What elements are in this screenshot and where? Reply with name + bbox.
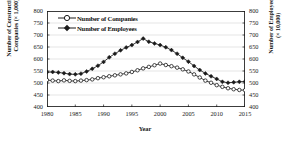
y-axis-left-tick-550: 550 [23, 67, 43, 74]
y-axis-left-title-line2: Companies (× 1,000) [12, 0, 19, 71]
data-point [130, 43, 134, 47]
data-point [153, 63, 157, 67]
data-point [226, 87, 230, 91]
legend-label-companies: Number of Companies [77, 15, 138, 22]
series-employees [47, 37, 245, 85]
data-point [209, 74, 213, 78]
data-point [232, 87, 236, 91]
data-point [124, 72, 128, 76]
data-point [62, 71, 66, 75]
y-axis-right-tick-450: 450 [249, 91, 269, 98]
data-point [102, 75, 106, 79]
y-axis-right-tick-750: 750 [249, 19, 269, 26]
data-point [68, 72, 72, 76]
data-point [147, 65, 151, 69]
x-axis-tick-1985: 1985 [63, 110, 87, 117]
data-point [68, 79, 72, 83]
data-point [141, 67, 145, 71]
y-axis-left-tick-500: 500 [23, 79, 43, 86]
data-point [198, 76, 202, 80]
data-point [232, 80, 236, 84]
data-point [238, 88, 242, 92]
data-point [113, 74, 117, 78]
data-point [170, 64, 174, 68]
data-point [51, 70, 55, 74]
data-point [204, 79, 208, 83]
x-axis-tick-2005: 2005 [176, 110, 200, 117]
data-point [57, 79, 61, 83]
x-axis-tick-2010: 2010 [205, 110, 229, 117]
y-axis-right-tick-800: 800 [249, 7, 269, 14]
data-point [96, 76, 100, 80]
data-point [136, 40, 140, 44]
data-point [215, 83, 219, 87]
legend-item-employees: Number of Employees [57, 23, 161, 33]
x-axis-tick-2015: 2015 [233, 110, 257, 117]
y-axis-left-tick-450: 450 [23, 91, 43, 98]
data-point [169, 48, 173, 52]
data-point [91, 78, 95, 82]
open-circle-icon [57, 13, 77, 23]
data-point [243, 88, 245, 92]
data-point [209, 81, 213, 85]
y-axis-left-tick-400: 400 [23, 103, 43, 110]
data-point [79, 72, 83, 76]
x-axis-tick-1980: 1980 [35, 110, 59, 117]
x-axis-tick-1990: 1990 [92, 110, 116, 117]
x-axis-tick-2000: 2000 [148, 110, 172, 117]
data-point [62, 79, 66, 83]
chart-figure: Number of Construction Companies (× 1,00… [0, 0, 296, 142]
y-axis-right-tick-500: 500 [249, 79, 269, 86]
data-point [74, 79, 78, 83]
data-point [221, 85, 225, 89]
legend-label-employees: Number of Employees [77, 25, 137, 32]
data-point [187, 70, 191, 74]
y-axis-right-tick-550: 550 [249, 67, 269, 74]
data-point [107, 75, 111, 79]
data-point [164, 63, 168, 67]
y-axis-left-tick-600: 600 [23, 55, 43, 62]
x-axis-title: Year [44, 125, 246, 133]
y-axis-right-tick-400: 400 [249, 103, 269, 110]
data-point [85, 69, 89, 73]
y-axis-right-tick-700: 700 [249, 31, 269, 38]
y-axis-left-tick-700: 700 [23, 31, 43, 38]
data-point [79, 79, 83, 83]
y-axis-right-tick-650: 650 [249, 43, 269, 50]
data-point [203, 71, 207, 75]
data-point [147, 40, 151, 44]
data-point [158, 62, 162, 65]
data-point [85, 78, 89, 82]
y-axis-left-title-line1: Number of Construction [5, 0, 12, 71]
y-axis-right-tick-600: 600 [249, 55, 269, 62]
data-point [51, 79, 55, 83]
data-point [181, 68, 185, 72]
y-axis-left-tick-650: 650 [23, 43, 43, 50]
data-point [152, 41, 156, 45]
y-axis-left-tick-750: 750 [23, 19, 43, 26]
chart-legend: Number of Companies Number of Employees [57, 13, 161, 33]
y-axis-left-title: Number of Construction Companies (× 1,00… [5, 0, 20, 71]
data-point [73, 72, 77, 76]
data-point [215, 77, 219, 81]
filled-diamond-icon [57, 23, 77, 33]
data-point [226, 81, 230, 85]
y-axis-right-title-line2: (× 10,000) [274, 0, 281, 71]
data-point [141, 37, 145, 41]
data-point [130, 70, 134, 74]
data-point [175, 66, 179, 70]
data-point [90, 67, 94, 71]
data-point [119, 73, 123, 77]
data-point [47, 78, 49, 82]
data-point [124, 45, 128, 49]
series-companies [47, 62, 245, 92]
data-point [164, 45, 168, 49]
data-point [113, 52, 117, 56]
legend-item-companies: Number of Companies [57, 13, 161, 23]
data-point [158, 43, 162, 47]
data-point [192, 73, 196, 77]
data-point [136, 69, 140, 73]
x-axis-tick-1995: 1995 [120, 110, 144, 117]
data-point [119, 48, 123, 52]
y-axis-left-tick-800: 800 [23, 7, 43, 14]
